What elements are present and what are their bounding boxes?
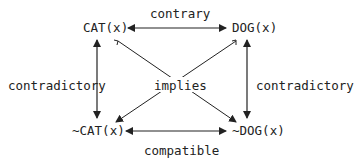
node-not-cat: ~CAT(x) xyxy=(72,125,125,138)
relation-label-implies: implies xyxy=(154,80,207,93)
relation-label-contrary: contrary xyxy=(150,8,210,21)
relation-label-contradictory-right: contradictory xyxy=(256,80,354,93)
relation-label-contradictory-left: contradictory xyxy=(8,80,106,93)
node-not-dog: ~DOG(x) xyxy=(232,125,285,138)
node-dog: DOG(x) xyxy=(232,22,277,35)
node-cat: CAT(x) xyxy=(83,22,128,35)
relation-label-compatible: compatible xyxy=(144,145,219,158)
